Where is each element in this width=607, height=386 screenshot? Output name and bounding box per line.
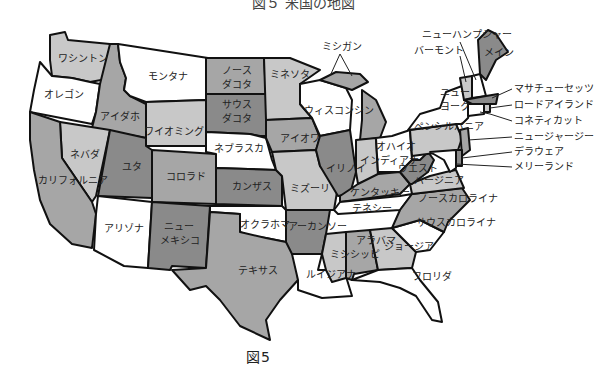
label-kentucky: ケンタッキー xyxy=(350,187,410,198)
label-georgia: ジョージア xyxy=(384,241,434,252)
leader-connecticut xyxy=(480,112,512,121)
label-utah: ユタ xyxy=(122,161,142,172)
label-washington: ワシントン xyxy=(58,53,108,64)
label-new-mexico-2: メキシコ xyxy=(160,235,200,246)
label-idaho: アイダホ xyxy=(100,110,140,122)
label-wisconsin: ウィスコンシン xyxy=(304,105,374,116)
label-iowa: アイオワ xyxy=(280,133,320,144)
label-texas: テキサス xyxy=(238,265,278,276)
us-states-map: ワシントン オレゴン アイダホ モンタナ ワイオミング ネバダ カリフォルニア … xyxy=(0,0,607,386)
label-missouri: ミズーリ xyxy=(290,182,330,194)
label-nebraska: ネブラスカ xyxy=(214,142,264,154)
label-west-virginia-1: ウエスト xyxy=(398,163,438,174)
label-arizona: アリゾナ xyxy=(104,223,144,234)
leader-rhode-island xyxy=(490,105,512,108)
label-new-york-1: ニュー xyxy=(440,87,470,98)
label-new-york-2: ヨーク xyxy=(440,101,470,112)
label-north-dakota-1: ノース xyxy=(222,65,252,76)
label-delaware: デラウェア xyxy=(514,145,564,157)
label-virginia: バージニア xyxy=(414,175,464,186)
label-pennsylvania: ペンシルバニア xyxy=(414,121,484,132)
label-arkansas: アーカンソー xyxy=(288,221,347,232)
label-north-dakota-2: ダコタ xyxy=(222,78,252,90)
label-wyoming: ワイオミング xyxy=(144,125,204,137)
label-florida: フロリダ xyxy=(412,270,452,282)
label-ohio: オハイオ xyxy=(376,141,416,152)
label-massachusetts: マサチューセッツ xyxy=(514,83,594,94)
label-new-mexico-1: ニュー xyxy=(164,221,194,232)
state-connecticut[interactable] xyxy=(468,104,484,116)
state-wyoming[interactable] xyxy=(146,100,206,146)
label-nevada: ネバダ xyxy=(70,148,100,160)
label-california: カリフォルニア xyxy=(38,175,108,186)
label-connecticut: コネティカット xyxy=(514,115,583,126)
label-south-dakota-1: サウス xyxy=(222,99,252,110)
label-maryland: メリーランド xyxy=(514,161,574,172)
label-oklahoma: オクラホマ xyxy=(240,219,290,230)
leader-new-jersey xyxy=(468,137,512,140)
label-south-carolina: サウスカロライナ xyxy=(416,217,496,228)
label-montana: モンタナ xyxy=(148,71,188,82)
label-maine: メイン xyxy=(484,47,514,58)
label-mississippi: ミシシッピ xyxy=(330,249,380,260)
leader-delaware xyxy=(462,152,512,158)
label-michigan: ミシガン xyxy=(322,41,362,52)
label-minnesota: ミネソタ xyxy=(270,69,310,80)
label-new-hampshire: ニューハンプシャー xyxy=(422,29,512,40)
label-south-dakota-2: ダコタ xyxy=(222,112,252,124)
leader-maryland xyxy=(456,164,512,167)
label-oregon: オレゴン xyxy=(44,88,84,100)
label-colorado: コロラド xyxy=(166,171,206,182)
label-tennessee: テネシー xyxy=(352,203,392,214)
label-vermont: バーモント xyxy=(414,45,464,56)
figure-caption: 図5 xyxy=(246,346,271,366)
label-kansas: カンザス xyxy=(232,181,272,192)
label-new-jersey: ニュージャージー xyxy=(514,131,594,142)
label-louisiana: ルイジアナ xyxy=(306,269,356,280)
label-rhode-island: ロードアイランド xyxy=(514,99,594,110)
label-north-carolina: ノースカロライナ xyxy=(418,193,498,204)
